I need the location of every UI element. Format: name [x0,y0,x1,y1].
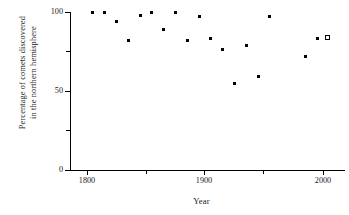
data-point [174,11,177,14]
y-tick-label-0: 0 [23,166,63,174]
data-point [115,20,118,23]
data-point [316,37,319,40]
x-axis-label: Year [0,196,349,206]
x-tick-1800 [87,170,88,175]
data-point [127,39,130,42]
data-point [304,55,307,58]
x-tick-label-1900: 1900 [184,176,224,185]
data-point [198,15,201,18]
data-point [245,44,248,47]
x-tick-label-1800: 1800 [67,176,107,185]
data-point [103,11,106,14]
data-point [233,82,236,85]
y-tick-label-50: 50 [23,87,63,95]
data-point [268,15,271,18]
plot-area: 100 50 0 1800 1900 2000 [0,0,349,215]
x-axis-label-text: Year [193,196,210,206]
data-point [257,75,260,78]
scatter-chart-figure: Percentage of comets discovered in the n… [0,0,349,215]
data-point [162,28,165,31]
x-tick-1900 [204,170,205,175]
y-tick-25 [66,130,70,131]
data-point [150,11,153,14]
y-tick-label-100: 100 [23,8,63,16]
y-tick-50 [65,91,70,92]
y-tick-100 [65,12,70,13]
y-tick-0 [65,170,70,171]
data-point [91,11,94,14]
data-point [186,39,189,42]
data-point [325,35,330,40]
data-point [209,37,212,40]
x-tick-1950 [263,170,264,174]
x-axis-line [70,170,345,171]
y-tick-75 [66,51,70,52]
x-tick-2000 [323,170,324,175]
y-axis-line [70,12,71,171]
data-point [139,14,142,17]
x-tick-1850 [146,170,147,174]
x-tick-label-2000: 2000 [303,176,343,185]
data-point [221,48,224,51]
